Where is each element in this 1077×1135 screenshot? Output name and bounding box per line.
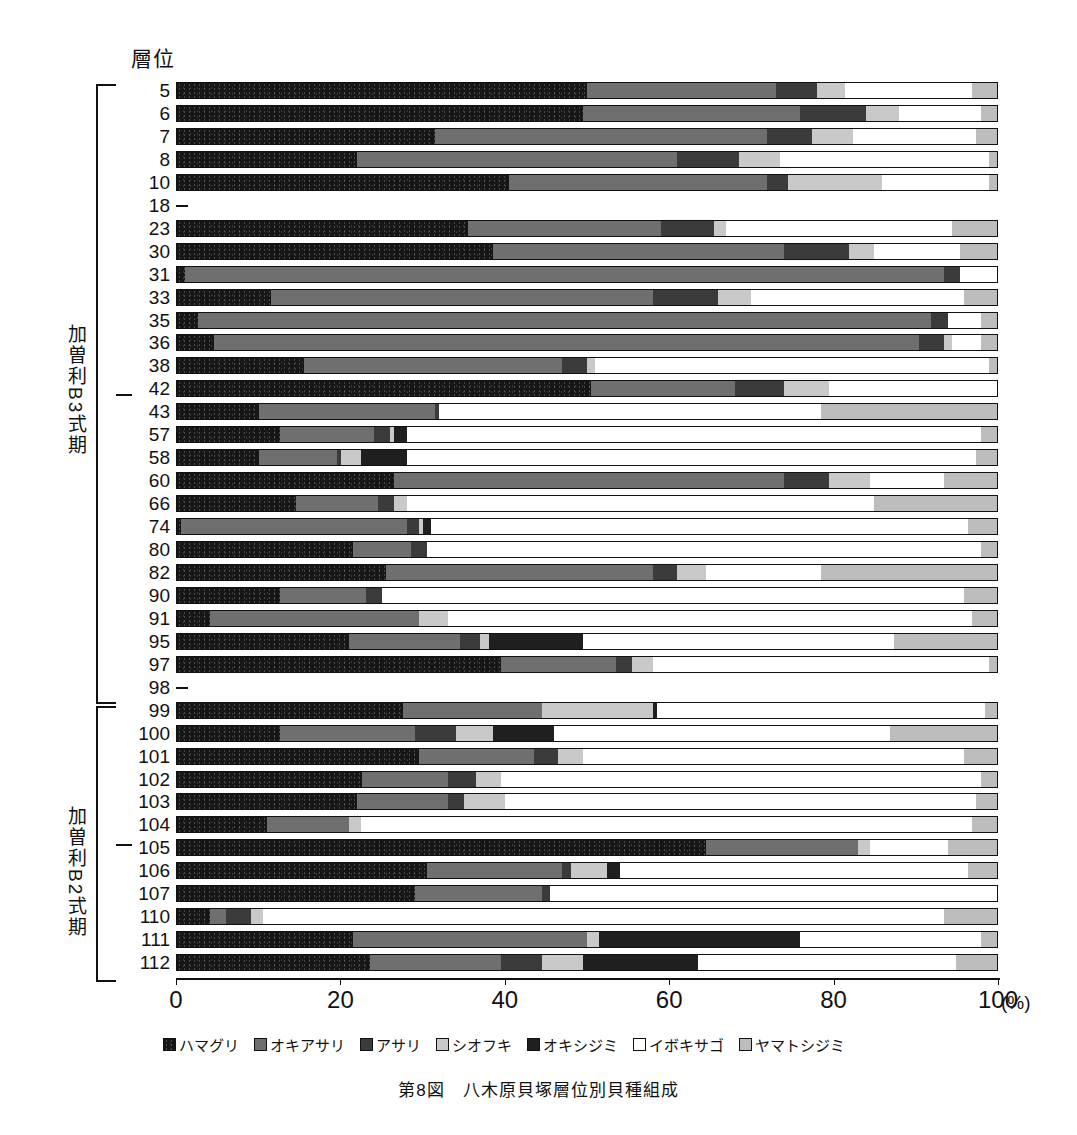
bar-segment [870,840,948,855]
x-tick-label: 20 [327,986,354,1014]
bar-segment [587,932,599,947]
bar-segment [989,152,997,167]
bar-row [176,128,998,145]
bar-segment [562,358,587,373]
bar-segment [948,840,997,855]
bar-segment [706,840,858,855]
layer-label: 60 [108,472,170,489]
bar-segment [214,335,919,350]
bar-segment [411,542,427,557]
x-tick-label: 40 [491,986,518,1014]
bar-segment [456,726,493,741]
bar-segment [780,152,989,167]
bar-segment [874,244,960,259]
stacked-bar [177,749,997,764]
bar-row [176,656,998,673]
bar-segment [788,175,882,190]
bar-segment [362,772,448,787]
bar-segment [981,106,997,121]
bar-segment [361,817,972,832]
bar-segment [476,772,501,787]
bar-row [176,885,998,902]
bar-segment [956,955,997,970]
bar-segment [177,450,259,465]
bar-segment [407,496,874,511]
bar-row [176,472,998,489]
bar-segment [386,565,653,580]
x-tick [340,978,341,985]
bar-segment [177,267,185,282]
bar-segment [263,909,944,924]
stacked-bar [177,519,997,534]
bar-segment [177,565,386,580]
legend-item: アサリ [360,1034,421,1055]
bar-segment [845,83,972,98]
layer-label: 42 [108,380,170,397]
layer-label: 111 [108,931,170,948]
legend-swatch [527,1038,540,1051]
bar-segment [210,611,419,626]
bar-segment [739,152,780,167]
bar-segment [177,129,435,144]
bar-segment [403,703,542,718]
legend-label: アサリ [376,1034,421,1055]
bar-row [176,748,998,765]
layer-label: 91 [108,610,170,627]
x-tick [176,978,177,985]
bar-segment [509,175,767,190]
legend-item: ハマグリ [163,1034,239,1055]
bar-segment [280,588,366,603]
bar-segment [989,657,997,672]
layer-label: 31 [108,266,170,283]
layer-label: 107 [108,885,170,902]
figure-caption: 第8図 八木原貝塚層位別貝種組成 [0,1076,1077,1101]
bar-segment [981,335,997,350]
y-axis-title: 層位 [131,42,175,72]
layer-label: 35 [108,312,170,329]
layer-label: 36 [108,334,170,351]
bar-segment [829,473,870,488]
bar-segment [177,657,501,672]
bar-segment [177,335,214,350]
bar-segment [858,840,870,855]
bar-segment [583,106,800,121]
bar-segment [706,565,821,580]
bar-segment [177,244,493,259]
bar-segment [407,450,977,465]
legend-swatch [254,1038,267,1051]
bar-segment [976,129,997,144]
bar-segment [501,955,542,970]
empty-layer-tick [176,205,188,207]
bar-segment [550,886,997,901]
bar-segment [357,794,447,809]
bar-segment [177,863,427,878]
layer-label: 105 [108,839,170,856]
bar-segment [177,955,370,970]
layer-label: 102 [108,771,170,788]
bar-segment [931,313,947,328]
legend-swatch [163,1038,176,1051]
bar-segment [817,83,846,98]
bar-row [176,449,998,466]
layer-label: 104 [108,816,170,833]
layer-label: 99 [108,702,170,719]
bar-segment [829,381,997,396]
bar-segment [177,175,509,190]
bar-segment [349,634,460,649]
bar-segment [259,450,337,465]
bar-segment [726,221,952,236]
bar-segment [968,863,997,878]
bar-row [176,702,998,719]
bar-segment [431,519,968,534]
stacked-bar [177,83,997,98]
bar-segment [944,335,952,350]
bar-segment [341,450,362,465]
stacked-bar [177,358,997,373]
bar-segment [562,863,570,878]
bar-segment [571,863,608,878]
bar-segment [271,290,652,305]
layer-label: 74 [108,518,170,535]
legend-label: シオフキ [452,1034,512,1055]
legend-item: オキアサリ [254,1034,345,1055]
bar-segment [177,106,583,121]
